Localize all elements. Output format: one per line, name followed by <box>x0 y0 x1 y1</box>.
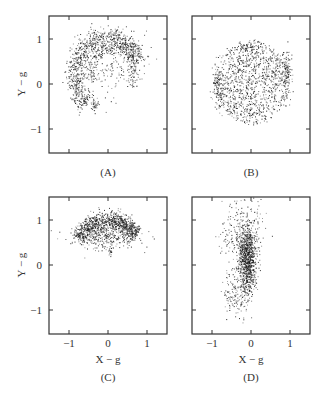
xlabel-d: X − g <box>238 353 264 365</box>
panel-a: 1 0 −1 Y − g (A) <box>15 16 167 179</box>
ylabel-c: Y − g <box>15 252 27 277</box>
panel-label-b: (B) <box>244 166 259 179</box>
ytick-label-a-neg1: −1 <box>30 123 42 135</box>
panel-label-c: (C) <box>101 371 116 384</box>
panel-c: 1 0 −1 −1 0 1 Y − g X − g (C) <box>15 197 167 384</box>
ticks-a <box>49 16 167 153</box>
xtick-label-c-0: 0 <box>105 337 111 349</box>
ytick-label-c-neg1: −1 <box>30 304 42 316</box>
panel-b: (B) <box>192 16 310 179</box>
scatter-points-d <box>215 198 273 324</box>
panel-label-d: (D) <box>243 371 259 384</box>
xtick-label-c-neg1: −1 <box>63 337 75 349</box>
panel-label-a: (A) <box>100 166 116 179</box>
ytick-label-c-0: 0 <box>37 259 43 271</box>
panel-d: −1 0 1 X − g (D) <box>192 197 310 384</box>
xtick-label-c-1: 1 <box>144 337 150 349</box>
ytick-label-a-0: 0 <box>37 78 43 90</box>
plot-frame-a <box>49 16 167 153</box>
ytick-label-a-1: 1 <box>37 33 43 45</box>
xlabel-c: X − g <box>95 353 121 365</box>
ylabel-a: Y − g <box>15 71 27 96</box>
xtick-label-d-1: 1 <box>287 337 293 349</box>
xtick-label-d-neg1: −1 <box>206 337 218 349</box>
figure: 1 0 −1 Y − g (A) (B) 1 0 −1 −1 0 1 Y <box>0 0 327 398</box>
ytick-label-c-1: 1 <box>37 214 43 226</box>
xtick-label-d-0: 0 <box>248 337 254 349</box>
scatter-points-b <box>210 39 294 125</box>
scatter-points-a <box>62 23 157 115</box>
scatter-points-c <box>51 207 155 258</box>
